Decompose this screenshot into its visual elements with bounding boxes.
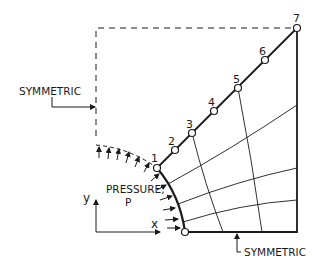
nodes [154,25,301,236]
node-1 [154,165,161,172]
axis-x-label: x [151,217,158,231]
node-7 [294,25,301,32]
diagonal-edge [157,28,297,168]
symmetric-boundary-dashed [96,28,297,136]
finite-element-diagram: 1 2 3 4 5 6 7 y x PRESSURE, P SYMMETRIC … [0,0,329,270]
node-label-5: 5 [233,73,240,86]
node-label-1: 1 [151,152,158,165]
node-label-4: 4 [208,96,215,109]
mesh-lines [168,88,297,232]
node-label-2: 2 [168,135,175,148]
symmetric-left-leader [52,97,95,107]
axis-y-label: y [83,191,90,205]
symmetric-left-label: SYMMETRIC [19,85,81,97]
diagram-canvas: 1 2 3 4 5 6 7 y x PRESSURE, P SYMMETRIC … [0,0,329,270]
node-label-6: 6 [259,45,266,58]
pressure-symbol: P [125,196,131,208]
pressure-label: PRESSURE, [106,183,165,195]
symmetric-bottom-label: SYMMETRIC [244,246,306,258]
node-bottom [182,229,189,236]
node-label-3: 3 [186,118,193,131]
node-label-7: 7 [293,12,300,25]
symmetric-bottom-leader [237,234,241,252]
